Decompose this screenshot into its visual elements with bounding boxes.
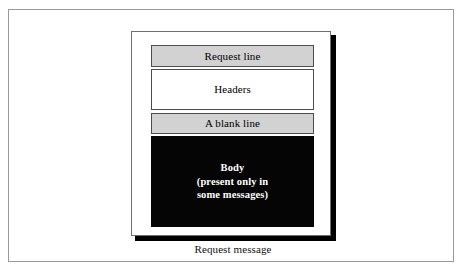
section-blank-line-label: A blank line <box>205 117 260 130</box>
request-message-card: Request line Headers A blank line Body (… <box>131 31 331 236</box>
section-body: Body (present only in some messages) <box>151 136 314 227</box>
section-blank-line: A blank line <box>151 113 314 134</box>
figure-caption: Request message <box>131 243 335 255</box>
section-body-label: Body (present only in some messages) <box>197 161 268 203</box>
section-request-line: Request line <box>151 45 314 67</box>
request-message-diagram: Request line Headers A blank line Body (… <box>0 0 464 275</box>
section-headers-label: Headers <box>214 83 251 96</box>
section-request-line-label: Request line <box>205 50 261 63</box>
section-headers: Headers <box>151 69 314 110</box>
